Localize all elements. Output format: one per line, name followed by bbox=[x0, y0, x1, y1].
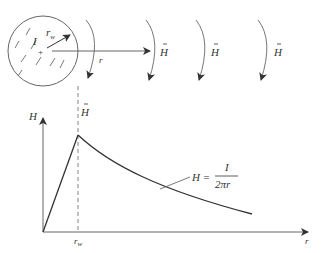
formula-denominator: 2πr bbox=[215, 178, 231, 190]
formula-leader bbox=[160, 177, 190, 189]
formula-numerator: I bbox=[224, 161, 230, 173]
field-label-1: H bbox=[159, 46, 169, 58]
radial-distance-label: r bbox=[99, 55, 103, 65]
figure-canvas: I + rw r H H H H H r rw H = I bbox=[0, 0, 322, 253]
current-label: I bbox=[32, 35, 38, 47]
field-arrow-3 bbox=[196, 20, 205, 80]
center-mark: + bbox=[38, 47, 43, 57]
field-arrows bbox=[86, 20, 267, 80]
h-inside-linear bbox=[43, 135, 78, 232]
field-arrow-1 bbox=[86, 20, 95, 78]
field-arrow-4 bbox=[258, 20, 267, 80]
x-axis-label: r bbox=[305, 236, 309, 246]
formula: H = I 2πr bbox=[191, 161, 238, 190]
rw-tick-label: rw bbox=[74, 236, 83, 248]
plot-axes: H r rw bbox=[28, 110, 309, 248]
vector-marks bbox=[84, 44, 281, 104]
radius-label: rw bbox=[46, 26, 55, 41]
formula-lhs: H = bbox=[191, 171, 210, 183]
field-label-3: H bbox=[273, 46, 283, 58]
h-outside-decay bbox=[78, 135, 252, 214]
field-label-2: H bbox=[210, 46, 220, 58]
field-arrow-2 bbox=[146, 20, 155, 80]
y-axis-label: H bbox=[28, 110, 38, 122]
dashed-field-label: H bbox=[80, 106, 90, 118]
